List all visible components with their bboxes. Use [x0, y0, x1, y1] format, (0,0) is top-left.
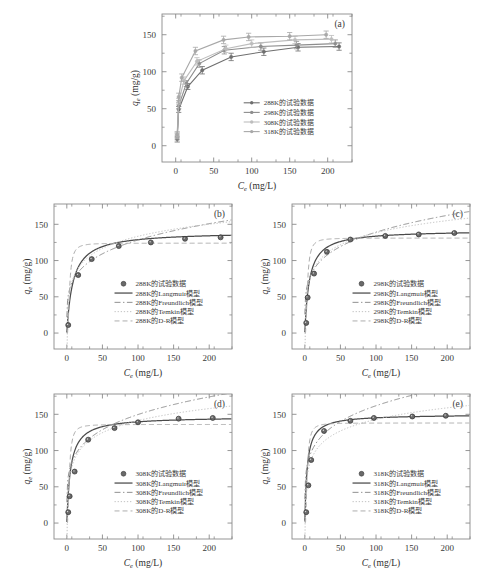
- data-point: [76, 273, 81, 278]
- x-tick-label: 0: [65, 353, 70, 363]
- y-tick-label: 100: [35, 256, 49, 266]
- panel-a-plot: 050100150200050100150Ce (mg/L)qe (mg/g)(…: [118, 6, 368, 196]
- data-point: [218, 235, 223, 240]
- legend-label: 318K的试验数据: [264, 127, 314, 136]
- data-point-highlight: [372, 417, 373, 418]
- legend-label: 308K的试验数据: [264, 118, 314, 127]
- data-point: [304, 320, 309, 325]
- data-point: [247, 35, 250, 38]
- legend-label: 298K的Temkin模型: [374, 307, 432, 316]
- legend-label: 308K的试验数据: [136, 469, 187, 478]
- data-point: [180, 76, 183, 79]
- x-axis-title: Ce (mg/L): [124, 368, 163, 379]
- y-tick-label: 100: [273, 446, 287, 456]
- legend-label: 318K的试验数据: [374, 469, 425, 478]
- panel-b: 050100150200050100150Ce (mg/L)qe (mg/g)(…: [10, 196, 245, 386]
- x-tick-label: 50: [209, 166, 219, 176]
- x-tick-label: 50: [98, 543, 108, 553]
- y-tick-label: 50: [39, 482, 49, 492]
- data-point-highlight: [305, 511, 306, 512]
- panel-c: 050100150200050100150Ce (mg/L)qe (mg/g)(…: [248, 196, 483, 386]
- data-point: [312, 271, 317, 276]
- data-point-highlight: [117, 245, 118, 246]
- y-axis-title: qe (mg/g): [260, 449, 271, 485]
- data-point: [416, 232, 421, 237]
- plot-frame: [292, 204, 470, 349]
- x-tick-label: 150: [167, 353, 181, 363]
- legend-label: 298K的试验数据: [264, 108, 314, 117]
- panel-a: 050100150200050100150Ce (mg/L)qe (mg/g)(…: [118, 6, 368, 196]
- data-point-highlight: [211, 417, 212, 418]
- legend-marker: [250, 120, 253, 123]
- data-point: [452, 231, 457, 236]
- data-point: [250, 42, 253, 45]
- data-point: [136, 420, 141, 425]
- x-tick-label: 0: [303, 353, 308, 363]
- data-point: [293, 38, 296, 41]
- data-point: [89, 257, 94, 262]
- y-tick-label: 150: [273, 220, 287, 230]
- y-tick-label: 0: [44, 518, 49, 528]
- y-tick-label: 50: [277, 292, 287, 302]
- data-point: [309, 457, 314, 462]
- legend-label: 298K的D-R模型: [374, 316, 423, 325]
- data-point: [334, 42, 337, 45]
- data-point-highlight: [444, 414, 445, 415]
- data-point-highlight: [453, 232, 454, 233]
- data-point: [182, 79, 185, 82]
- x-tick-label: 0: [65, 543, 70, 553]
- data-point: [86, 437, 91, 442]
- x-tick-label: 150: [405, 543, 419, 553]
- panel-id-label: (d): [214, 399, 225, 410]
- x-tick-label: 200: [440, 353, 454, 363]
- data-point-highlight: [87, 438, 88, 439]
- data-point-highlight: [219, 236, 220, 237]
- x-axis-title: Ce (mg/L): [362, 368, 401, 379]
- y-tick-label: 0: [282, 518, 287, 528]
- x-axis-title: Ce (mg/L): [124, 558, 163, 569]
- legend-label: 308K的Temkin模型: [136, 497, 194, 506]
- x-axis-title: Ce (mg/L): [238, 181, 277, 192]
- data-point: [224, 47, 227, 50]
- x-tick-label: 200: [440, 543, 454, 553]
- data-point-highlight: [349, 419, 350, 420]
- legend-marker: [250, 111, 253, 114]
- data-point: [201, 69, 204, 72]
- y-tick-label: 100: [273, 256, 287, 266]
- x-tick-label: 0: [303, 543, 308, 553]
- legend-label: 308K的D-R模型: [136, 506, 185, 515]
- data-point-highlight: [113, 427, 114, 428]
- data-point: [304, 510, 309, 515]
- data-point-highlight: [306, 296, 307, 297]
- data-point: [67, 494, 72, 499]
- x-tick-label: 50: [98, 353, 108, 363]
- data-point-highlight: [307, 484, 308, 485]
- data-point: [410, 414, 415, 419]
- panel-b-plot: 050100150200050100150Ce (mg/L)qe (mg/g)(…: [10, 196, 245, 386]
- data-point-highlight: [305, 322, 306, 323]
- y-tick-label: 150: [35, 220, 49, 230]
- data-point: [66, 323, 71, 328]
- legend-marker: [250, 130, 253, 133]
- data-point: [176, 133, 179, 136]
- legend-label: 288K的D-R模型: [136, 316, 185, 325]
- data-point: [348, 237, 353, 242]
- data-point: [148, 240, 153, 245]
- legend-marker: [121, 281, 126, 286]
- plot-frame: [162, 14, 352, 162]
- y-tick-label: 100: [35, 446, 49, 456]
- data-point-highlight: [73, 470, 74, 471]
- plot-frame: [54, 204, 232, 349]
- x-tick-label: 100: [245, 166, 259, 176]
- legend-label: 308K的Freundlich模型: [136, 488, 204, 497]
- x-tick-label: 100: [131, 543, 145, 553]
- panel-d: 050100150200050100150Ce (mg/L)qe (mg/g)(…: [10, 386, 245, 576]
- data-point-highlight: [349, 238, 350, 239]
- y-tick-label: 0: [282, 328, 287, 338]
- data-point-highlight: [384, 235, 385, 236]
- x-tick-label: 150: [283, 166, 297, 176]
- y-tick-label: 150: [35, 410, 49, 420]
- data-point: [176, 416, 181, 421]
- x-tick-label: 100: [131, 353, 145, 363]
- y-tick-label: 100: [143, 67, 157, 77]
